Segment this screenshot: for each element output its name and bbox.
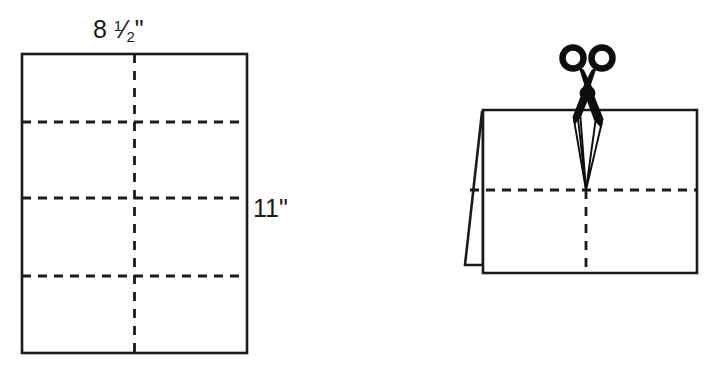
folded-sheet-back-flap (465, 112, 483, 265)
scissors-left-handle-ring (563, 48, 584, 69)
width-label-whole: 8 (93, 15, 107, 43)
scissors-right-handle-ring (592, 48, 613, 69)
paper-folding-figure: 8 1⁄2" 11" (0, 0, 717, 369)
flat-sheet-outline (22, 54, 247, 353)
height-label: 11" (253, 194, 288, 222)
width-label-denominator: 2 (126, 28, 134, 45)
folded-sheet-front-panel (483, 110, 697, 273)
width-label-numerator: 1 (114, 17, 122, 34)
figure-root: 8 1⁄2" 11" (0, 0, 717, 369)
left-flat-sheet-group (22, 54, 247, 353)
width-label-unit: " (135, 15, 144, 43)
width-label: 8 1⁄2" (93, 15, 144, 45)
right-folded-sheet-group (465, 48, 697, 274)
